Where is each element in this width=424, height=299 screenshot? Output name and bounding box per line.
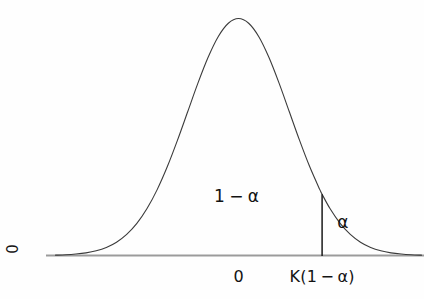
normal-density-curve-path [56, 19, 422, 256]
x-tick-label-center: 0 [234, 269, 244, 285]
confidence-region-label: 1 − α [214, 188, 260, 205]
distribution-plot [0, 0, 424, 299]
x-tick-label-critical-value: K(1 − α) [290, 269, 355, 285]
distribution-figure: 0 1 − α α 0 K(1 − α) [0, 0, 424, 299]
y-axis-origin-label: 0 [2, 238, 24, 260]
tail-region-label: α [337, 214, 348, 231]
